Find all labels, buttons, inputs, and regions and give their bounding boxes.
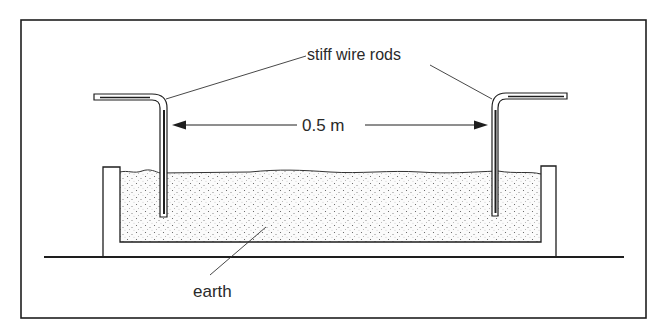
- rods-label: stiff wire rods: [307, 46, 401, 63]
- diagram-canvas: stiff wire rods 0.5 m earth: [0, 0, 658, 334]
- rods-leader-left: [166, 56, 306, 99]
- earth-fill: [120, 170, 541, 242]
- rods-leader-right: [430, 65, 492, 99]
- distance-label: 0.5 m: [302, 116, 345, 135]
- earth-label: earth: [193, 282, 232, 301]
- outer-frame: [21, 20, 646, 318]
